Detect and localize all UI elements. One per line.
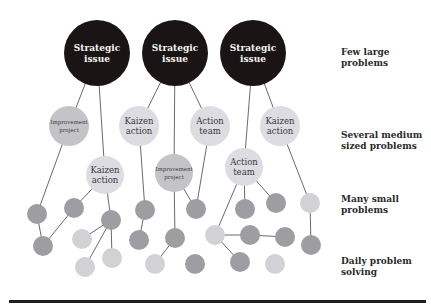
medium-problem-node: Improvementproject [155, 154, 194, 192]
level-label: Daily problem solving [341, 256, 412, 278]
node-label: Improvement [50, 119, 88, 126]
level-label: Many small problems [341, 194, 399, 216]
level-label: Few large problems [341, 47, 390, 69]
node-label: Kaizen [265, 116, 295, 126]
node-label: action [267, 126, 294, 136]
node-label: Strategic [230, 43, 277, 53]
level-label: Several medium sized problems [341, 130, 422, 152]
small-problem-node [301, 235, 321, 255]
bottom-rule [9, 300, 426, 303]
node-label: Strategic [152, 43, 199, 53]
strategic-issue-node: Strategicissue [220, 20, 286, 86]
small-problem-node [230, 252, 250, 272]
node-label: issue [240, 54, 266, 64]
node-label: issue [84, 54, 110, 64]
small-problem-node [265, 254, 285, 274]
node-label: issue [162, 54, 188, 64]
medium-problem-node: Kaizenaction [260, 106, 300, 146]
medium-problem-node: Actionteam [225, 148, 263, 186]
small-problem-node [300, 193, 320, 213]
node-label: action [92, 175, 119, 185]
small-problem-node [185, 254, 205, 274]
node-label: Strategic [74, 43, 121, 53]
node-label: Improvement [155, 166, 193, 173]
strategic-issue-node: Strategicissue [64, 20, 130, 86]
small-problem-node [186, 199, 206, 219]
small-problem-node [135, 200, 155, 220]
node-label: project [59, 127, 80, 134]
small-problem-node [27, 204, 47, 224]
small-problem-node [165, 228, 185, 248]
node-label: Action [229, 157, 258, 167]
small-problem-node [72, 229, 92, 249]
medium-problem-node: Kaizenaction [119, 106, 159, 146]
medium-problem-node: Actionteam [190, 106, 230, 146]
medium-problem-node: Improvementproject [49, 106, 89, 146]
node-label: Action [195, 116, 224, 126]
node-label: team [233, 167, 255, 177]
node-label: project [164, 174, 185, 181]
small-problem-node [145, 254, 165, 274]
small-problem-node [129, 230, 149, 250]
strategic-issue-node: Strategicissue [142, 20, 208, 86]
small-problem-node [75, 257, 95, 277]
small-problem-node [266, 193, 286, 213]
node-label: Kaizen [124, 116, 154, 126]
medium-problem-node: Kaizenaction [86, 156, 124, 194]
node-label: Kaizen [90, 165, 120, 175]
small-problem-node [33, 236, 53, 256]
small-problem-node [101, 210, 121, 230]
small-problem-node [240, 225, 260, 245]
small-problem-node [102, 248, 122, 268]
small-problem-node [64, 198, 84, 218]
node-label: team [199, 126, 221, 136]
small-problem-node [205, 225, 225, 245]
small-problem-node [235, 199, 255, 219]
node-label: action [126, 126, 153, 136]
small-problem-node [275, 227, 295, 247]
